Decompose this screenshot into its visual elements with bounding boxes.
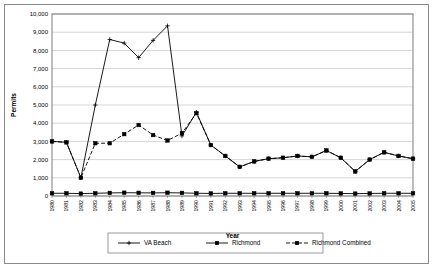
data-point-marker — [353, 192, 357, 196]
data-point-marker — [310, 191, 314, 195]
x-axis-tick-label: 2005 — [410, 200, 416, 212]
chart-canvas: 01,0002,0003,0004,0005,0006,0007,0008,00… — [0, 0, 425, 260]
data-point-marker — [180, 191, 184, 195]
y-axis-tick-label: 9,000 — [33, 29, 49, 35]
x-axis-tick-label: 1987 — [150, 200, 156, 212]
x-axis-tick-label: 1983 — [92, 200, 98, 212]
data-point-marker — [296, 191, 300, 195]
data-point-marker — [195, 111, 199, 115]
data-point-marker — [382, 191, 386, 195]
y-axis-tick-label: 5,000 — [33, 102, 49, 108]
data-point-marker — [368, 192, 372, 196]
data-point-marker — [137, 191, 141, 195]
x-axis-tick-label: 1995 — [266, 200, 272, 212]
data-point-marker — [223, 191, 227, 195]
data-point-marker — [252, 191, 256, 195]
y-axis-tick-label: 6,000 — [33, 84, 49, 90]
data-point-marker — [397, 191, 401, 195]
data-point-marker — [368, 158, 372, 162]
data-point-marker — [267, 157, 271, 161]
data-point-marker — [166, 139, 170, 143]
chart-figure: 01,0002,0003,0004,0005,0006,0007,0008,00… — [0, 0, 433, 268]
y-axis-title: Permits — [10, 93, 17, 117]
y-axis-tick-label: 0 — [45, 193, 49, 199]
data-point-marker — [50, 191, 54, 195]
data-point-marker — [108, 141, 112, 145]
x-axis-tick-label: 1980 — [49, 200, 55, 212]
data-point-marker — [223, 154, 227, 158]
data-point-marker — [397, 154, 401, 158]
data-point-marker — [310, 155, 314, 159]
legend-marker — [295, 241, 299, 245]
x-axis-tick-label: 2000 — [338, 200, 344, 212]
x-axis-tick-label: 2004 — [396, 200, 402, 212]
data-point-marker — [353, 170, 357, 174]
x-axis-tick-label: 1988 — [165, 200, 171, 212]
y-axis-tick-label: 8,000 — [33, 48, 49, 54]
x-axis-tick-label: 1992 — [222, 200, 228, 212]
data-point-marker — [382, 151, 386, 155]
data-point-marker — [252, 160, 256, 164]
x-axis-tick-label: 2003 — [381, 200, 387, 212]
data-point-marker — [281, 156, 285, 160]
x-axis-tick-label: 1994 — [251, 200, 257, 212]
x-axis-tick-label: 2002 — [367, 200, 373, 212]
legend: VA BeachRichmondRichmond Combined — [118, 239, 371, 246]
data-point-marker — [79, 192, 83, 196]
x-axis-tick-label: 1989 — [179, 200, 185, 212]
x-axis-tick-label: 2001 — [352, 200, 358, 212]
data-point-marker — [166, 191, 170, 195]
legend-marker — [215, 241, 219, 245]
x-axis-tick-label: 1990 — [193, 200, 199, 212]
legend-label: Richmond — [232, 239, 261, 246]
x-axis-tick-label: 1985 — [121, 200, 127, 212]
x-axis-tick-label: 1993 — [237, 200, 243, 212]
data-point-marker — [238, 165, 242, 169]
y-axis-tick-label: 1,000 — [33, 175, 49, 181]
data-point-marker — [50, 140, 54, 144]
x-axis-tick-label: 1982 — [78, 200, 84, 212]
data-point-marker — [94, 191, 98, 195]
x-axis-tick-label: 1998 — [309, 200, 315, 212]
data-point-marker — [65, 141, 69, 145]
x-axis-tick-label: 1984 — [107, 200, 113, 212]
x-axis-tick-label: 1997 — [294, 200, 300, 212]
data-point-marker — [94, 141, 98, 145]
x-axis-tick-label: 1986 — [136, 200, 142, 212]
x-axis-tick-label: 1981 — [63, 200, 69, 212]
y-axis-tick-label: 10,000 — [30, 11, 49, 17]
chart-svg: 01,0002,0003,0004,0005,0006,0007,0008,00… — [0, 0, 425, 260]
data-point-marker — [339, 156, 343, 160]
data-point-marker — [209, 192, 213, 196]
legend-label: Richmond Combined — [312, 239, 371, 246]
data-point-marker — [339, 192, 343, 196]
data-point-marker — [325, 149, 329, 153]
x-axis-tick-label: 1999 — [323, 200, 329, 212]
x-axis-tick-label: 1996 — [280, 200, 286, 212]
data-point-marker — [151, 191, 155, 195]
data-point-marker — [411, 191, 415, 195]
data-point-marker — [122, 132, 126, 136]
data-point-marker — [195, 191, 199, 195]
y-axis-tick-label: 4,000 — [33, 120, 49, 126]
data-point-marker — [108, 191, 112, 195]
data-point-marker — [137, 123, 141, 127]
y-axis-tick-label: 2,000 — [33, 157, 49, 163]
data-point-marker — [281, 191, 285, 195]
x-axis-tick-label: 1991 — [208, 200, 214, 212]
data-point-marker — [180, 131, 184, 135]
y-axis-tick-label: 7,000 — [33, 66, 49, 72]
y-axis-tick-label: 3,000 — [33, 139, 49, 145]
data-point-marker — [209, 143, 213, 147]
data-point-marker — [151, 133, 155, 137]
data-point-marker — [238, 191, 242, 195]
data-point-marker — [267, 191, 271, 195]
data-point-marker — [325, 191, 329, 195]
data-point-marker — [296, 154, 300, 158]
data-point-marker — [411, 157, 415, 161]
data-point-marker — [122, 191, 126, 195]
data-point-marker — [65, 191, 69, 195]
legend-label: VA Beach — [144, 239, 172, 246]
data-point-marker — [79, 176, 83, 180]
